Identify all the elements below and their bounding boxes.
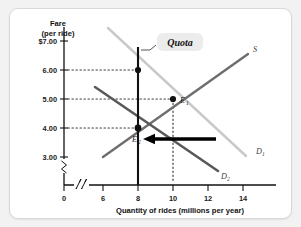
equilibrium-label-e1-subscript: 1 [186,100,189,106]
y-tick-label-4: 4.00 [43,124,57,133]
demand-curve-1-label: D [255,147,262,156]
y-axis-break-icon [62,161,67,173]
equilibrium-point-e2 [135,125,142,132]
demand-curve-2-label: D [220,172,227,181]
quota-demand-point [135,67,141,73]
x-tick-label-12: 12 [204,194,212,203]
x-tick-label-14: 14 [239,194,248,203]
y-tick-label-5: 5.00 [43,95,57,104]
y-axis-tick-labels: $7.00 6.00 5.00 4.00 3.00 [39,37,58,162]
shift-arrow-head [143,134,155,144]
x-tick-label-0: 0 [62,194,66,203]
equilibrium-label-e1: E [179,96,185,105]
equilibrium-label-e2-subscript: 2 [138,139,141,145]
figure-panel: $7.00 6.00 5.00 4.00 3.00 0 6 8 10 12 14… [9,8,292,219]
quota-supply-demand-chart: $7.00 6.00 5.00 4.00 3.00 0 6 8 10 12 14… [10,9,293,220]
x-tick-label-8: 8 [136,194,140,203]
x-tick-label-10: 10 [169,194,177,203]
y-axis-title-line1: Fare [50,19,66,28]
x-axis-title: Quantity of rides (millions per year) [116,206,244,215]
supply-curve-label: S [253,45,257,54]
demand-curve-1-label-subscript: 1 [262,151,265,157]
quota-callout-leader-line [141,45,156,50]
x-axis-break-mask [74,182,89,188]
equilibrium-label-e2: E [131,135,137,144]
demand-curve-2-label-subscript: 2 [227,176,230,182]
axes [62,27,277,189]
y-axis-title-line2: (per ride) [42,29,75,38]
guide-lines [68,70,173,181]
demand-curve-2: D 2 [95,87,230,182]
equilibrium-point-e1 [170,96,176,102]
x-tick-label-6: 6 [101,194,105,203]
y-tick-label-6: 6.00 [43,66,57,75]
demand-curve-2-line [95,87,218,171]
quota-callout: Quota [141,33,203,51]
x-axis-tick-labels: 0 6 8 10 12 14 [62,194,248,203]
shift-arrow [143,134,216,144]
x-axis-ticks [64,185,243,191]
quota-callout-label: Quota [167,37,193,48]
y-tick-label-3: 3.00 [43,153,57,162]
